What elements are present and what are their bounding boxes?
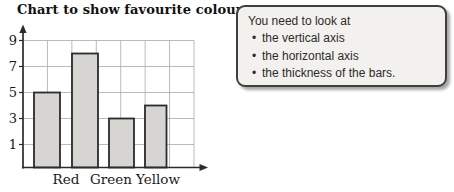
- bullet-icon: •: [252, 65, 262, 83]
- callout-list: • the vertical axis • the horizontal axi…: [248, 30, 437, 83]
- screenshot-root: Chart to show favourite colour 97531RedG…: [0, 0, 454, 192]
- plot-area: 97531RedGreenYellow: [0, 0, 230, 192]
- callout-bullet-item: • the vertical axis: [248, 30, 437, 48]
- callout-intro: You need to look at: [248, 13, 437, 29]
- x-tick-label-yellow: Yellow: [135, 171, 180, 187]
- bar-green: [72, 54, 98, 168]
- y-tick-label: 5: [9, 85, 17, 100]
- y-tick-label: 1: [9, 137, 17, 152]
- x-tick-label-red: Red: [53, 171, 80, 187]
- y-tick-label: 7: [9, 59, 17, 74]
- y-axis-arrow-icon: [19, 25, 26, 34]
- y-tick-label: 9: [9, 33, 17, 48]
- bar-yellow: [145, 106, 167, 168]
- bar-unlabeled: [109, 119, 134, 168]
- x-tick-label-green: Green: [90, 171, 132, 187]
- x-axis-arrow-icon: [200, 164, 209, 171]
- bar-red: [34, 93, 60, 168]
- callout-box: You need to look at • the vertical axis …: [236, 5, 447, 87]
- callout-bullet-text: the thickness of the bars.: [262, 65, 395, 83]
- bullet-icon: •: [252, 48, 262, 66]
- y-tick-label: 3: [9, 111, 17, 126]
- callout-bullet-item: • the thickness of the bars.: [248, 65, 437, 83]
- bullet-icon: •: [252, 30, 262, 48]
- callout-bullet-item: • the horizontal axis: [248, 48, 437, 66]
- callout-bullet-text: the horizontal axis: [262, 48, 359, 66]
- callout-bullet-text: the vertical axis: [262, 30, 345, 48]
